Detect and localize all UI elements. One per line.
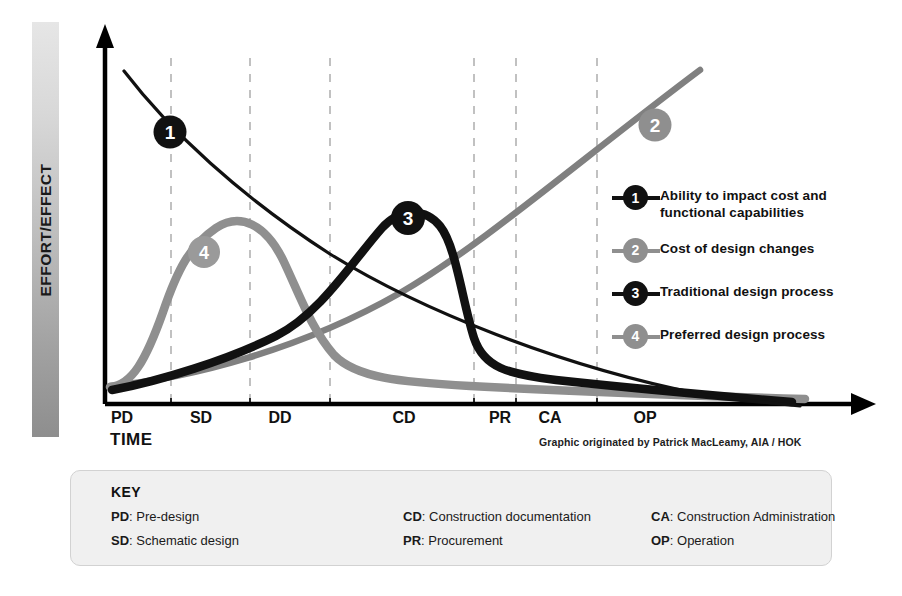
key-entry-op: OP: Operation: [651, 533, 835, 548]
legend-item-2: 2 Cost of design changes: [612, 235, 892, 265]
y-axis: [96, 24, 114, 404]
key-term-pd: Pre-design: [136, 509, 199, 524]
legend-item-1: 1 Ability to impact cost and functional …: [612, 182, 892, 222]
plot-badge-1-label: 1: [165, 122, 176, 143]
legend-label-3: Traditional design process: [660, 278, 834, 300]
plot-badge-4: 4: [188, 236, 220, 268]
x-tick-label-dd: DD: [258, 409, 302, 427]
plot-badge-2-label: 2: [650, 115, 661, 136]
legend-marker-1-wrap: 1: [612, 182, 660, 212]
x-tick-label-pd: PD: [100, 409, 144, 427]
legend-marker-2-wrap: 2: [612, 235, 660, 265]
key-entry-sd: SD: Schematic design: [111, 533, 403, 548]
legend-marker-4-wrap: 4: [612, 321, 660, 351]
key-term-op: Operation: [677, 533, 734, 548]
legend-badge-1: 1: [623, 185, 648, 210]
legend-item-4: 4 Preferred design process: [612, 321, 892, 351]
legend: 1 Ability to impact cost and functional …: [612, 182, 892, 364]
key-term-sd: Schematic design: [136, 533, 239, 548]
key-title: KEY: [111, 484, 831, 500]
legend-marker-3-wrap: 3: [612, 278, 660, 308]
legend-label-4: Preferred design process: [660, 321, 825, 343]
legend-label-1: Ability to impact cost and functional ca…: [660, 182, 876, 222]
x-tick-label-pr: PR: [478, 409, 522, 427]
legend-item-3: 3 Traditional design process: [612, 278, 892, 308]
x-axis-title: TIME: [110, 430, 153, 450]
key-entry-ca: CA: Construction Administration: [651, 509, 835, 524]
plot-badge-3-label: 3: [403, 208, 414, 229]
key-grid: PD: Pre-design CD: Construction document…: [111, 509, 831, 548]
x-tick-label-cd: CD: [382, 409, 426, 427]
plot-badge-4-label: 4: [199, 243, 209, 263]
legend-badge-3: 3: [623, 281, 648, 306]
key-term-cd: Construction documentation: [429, 509, 591, 524]
key-abbr-cd: CD: [403, 509, 422, 524]
plot-badge-1: 1: [154, 116, 187, 149]
x-tick-label-op: OP: [623, 409, 667, 427]
plot-badge-2: 2: [639, 109, 672, 142]
legend-badge-2: 2: [623, 238, 648, 263]
key-entry-pr: PR: Procurement: [403, 533, 651, 548]
legend-label-2: Cost of design changes: [660, 235, 814, 257]
x-tick-label-sd: SD: [179, 409, 223, 427]
key-term-ca: Construction Administration: [677, 509, 835, 524]
key-abbr-sd: SD: [111, 533, 129, 548]
key-box: KEY PD: Pre-design CD: Construction docu…: [70, 470, 832, 566]
legend-badge-4: 4: [623, 324, 648, 349]
key-abbr-op: OP: [651, 533, 670, 548]
macleamy-curve-diagram: EFFORT/EFFECT: [0, 0, 902, 596]
key-abbr-ca: CA: [651, 509, 670, 524]
key-entry-pd: PD: Pre-design: [111, 509, 403, 524]
attribution-text: Graphic originated by Patrick MacLeamy, …: [539, 436, 801, 448]
key-abbr-pd: PD: [111, 509, 129, 524]
plot-badge-3: 3: [391, 201, 425, 235]
key-abbr-pr: PR: [403, 533, 421, 548]
key-entry-cd: CD: Construction documentation: [403, 509, 651, 524]
x-tick-label-ca: CA: [528, 409, 572, 427]
key-term-pr: Procurement: [428, 533, 502, 548]
